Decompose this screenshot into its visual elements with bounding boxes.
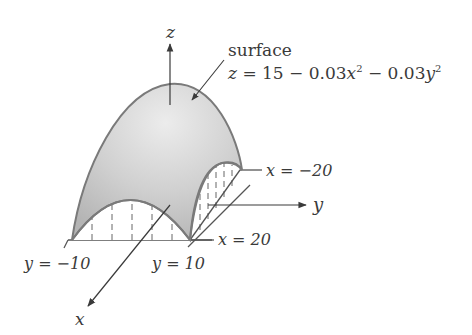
x-axis-label: x — [75, 311, 85, 328]
eq-term2: − 0.03 — [363, 63, 426, 83]
surface-equation: z = 15 − 0.03x2 − 0.03y2 — [228, 64, 441, 82]
boundary-label-y-neg: y = −10 — [24, 256, 90, 272]
boundary-label-x-pos: x = 20 — [218, 232, 271, 248]
eq-y-exp: 2 — [435, 63, 441, 74]
z-axis-label: z — [166, 24, 175, 41]
surface-diagram: z surface z = 15 − 0.03x2 − 0.03y2 x = −… — [0, 0, 472, 335]
eq-x: x — [347, 63, 357, 83]
boundary-label-y-pos: y = 10 — [152, 256, 205, 272]
surface-title: surface — [228, 42, 292, 59]
eq-y: y — [425, 63, 435, 83]
surface-pointer-arrow — [192, 60, 224, 100]
eq-term1: 15 − 0.03 — [262, 63, 347, 83]
eq-lhs: z — [228, 63, 237, 83]
boundary-label-x-neg: x = −20 — [266, 163, 332, 179]
y-axis-label: y — [313, 196, 323, 214]
